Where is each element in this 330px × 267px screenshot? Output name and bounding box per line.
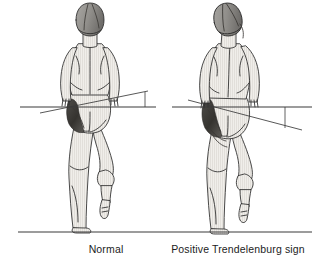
caption-normal: Normal (56, 243, 156, 255)
canvas-background (0, 0, 330, 267)
normal-lifted-knee (97, 170, 114, 188)
illustration-container: Normal Positive Trendelenburg sign (0, 0, 330, 267)
positive-lifted-knee (236, 174, 253, 192)
trendelenburg-illustration (0, 0, 330, 267)
caption-positive-trendelenburg: Positive Trendelenburg sign (166, 243, 310, 255)
